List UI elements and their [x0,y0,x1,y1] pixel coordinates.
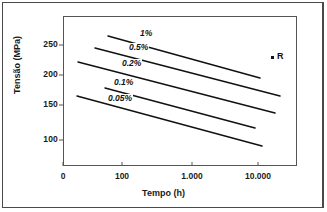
r-point-label: R [277,52,284,61]
chart-figure: Tensão (MPa) 250 200 150 100 0 100 1.000… [0,0,327,212]
curve-label-0_1pct: 0.1% [113,78,134,87]
r-point-marker [271,56,274,59]
x-axis-ticks [63,162,258,166]
curve-0_5pct [95,48,280,96]
curve-label-0_05pct: 0.05% [107,94,133,103]
curve-0_05pct [77,96,262,146]
curve-label-0_2pct: 0.2% [121,59,142,68]
creep-curves [77,36,280,146]
curve-label-0_5pct: 0.5% [128,43,149,52]
curve-label-1pct: 1% [139,29,153,38]
chart-vector-layer [0,0,327,212]
y-axis-ticks [59,45,63,140]
